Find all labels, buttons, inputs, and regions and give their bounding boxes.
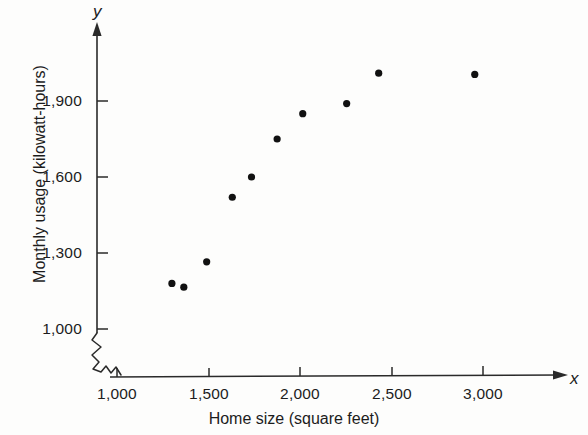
x-tick-label-2500: 2,500 — [347, 385, 437, 403]
x-axis-arrowhead — [553, 370, 568, 379]
y-axis-variable-letter: y — [93, 2, 102, 22]
y-axis-ticks — [97, 101, 108, 329]
y-tick-label-1000: 1,000 — [16, 320, 82, 338]
y-axis-arrowhead — [92, 22, 101, 36]
data-point-group — [168, 70, 478, 291]
x-tick-label-1000: 1,000 — [72, 385, 162, 403]
y-axis-title: Monthly usage (kilowatt-hours) — [31, 65, 48, 283]
scatter-plot-figure: 1,900 1,600 1,300 1,000 1,000 1,500 2,00… — [0, 0, 588, 435]
data-point — [471, 71, 478, 78]
y-tick-label-1900: 1,900 — [16, 92, 82, 110]
data-point — [274, 135, 281, 142]
x-tick-label-3000: 3,000 — [438, 385, 528, 403]
data-point — [375, 70, 382, 77]
axes-group — [92, 22, 568, 380]
x-tick-label-1500: 1,500 — [164, 385, 254, 403]
x-axis-title: Home size (square feet) — [0, 410, 588, 428]
y-axis-title-container: Monthly usage (kilowatt-hours) — [31, 14, 49, 334]
x-axis-line — [110, 375, 560, 377]
data-point — [203, 258, 210, 265]
x-axis-variable-letter: x — [570, 369, 579, 389]
data-point — [248, 173, 255, 180]
y-tick-label-1300: 1,300 — [16, 244, 82, 262]
y-tick-label-1600: 1,600 — [16, 168, 82, 186]
data-point — [343, 100, 350, 107]
data-point — [168, 280, 175, 287]
data-point — [229, 194, 236, 201]
x-tick-label-2000: 2,000 — [255, 385, 345, 403]
plot-canvas — [0, 0, 588, 435]
data-point — [180, 284, 187, 291]
data-point — [299, 110, 306, 117]
